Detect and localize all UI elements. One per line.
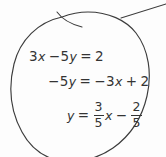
line3-variable-y: y	[67, 108, 75, 123]
slope-denominator: 5	[94, 117, 104, 130]
line1-constant-2: 2	[95, 48, 104, 64]
equation-line-2: −5y=−3x+2	[48, 73, 150, 89]
line1-equals-sign: =	[80, 48, 92, 64]
line2-plus-sign: +	[126, 73, 138, 89]
intercept-denominator: 5	[131, 117, 141, 130]
line2-negative-sign-2: −	[94, 73, 106, 89]
line2-variable-y: y	[69, 74, 77, 89]
line3-variable-x: x	[105, 108, 113, 123]
line1-coeff-3: 3	[29, 48, 38, 64]
line3-equals-sign: =	[78, 107, 90, 123]
handwritten-note-screenshot: 3x−5y=2 −5y=−3x+2 y=35x−25	[0, 0, 166, 157]
equation-line-1: 3x−5y=2	[29, 48, 104, 64]
equation-work-block: 3x−5y=2 −5y=−3x+2 y=35x−25	[0, 0, 166, 157]
intercept-numerator: 2	[131, 101, 141, 114]
slope-numerator: 3	[94, 101, 104, 114]
line1-minus-sign: −	[49, 48, 61, 64]
fraction-slope-three-fifths: 35	[94, 101, 104, 129]
line2-variable-x: x	[115, 74, 123, 89]
fraction-intercept-two-fifths: 25	[131, 101, 141, 129]
line1-coeff-5: 5	[61, 48, 70, 64]
line3-minus-sign: −	[116, 107, 128, 123]
line2-constant-2: 2	[141, 73, 150, 89]
line1-variable-y: y	[70, 49, 78, 64]
line2-negative-sign: −	[48, 73, 60, 89]
line2-coeff-3: 3	[106, 73, 115, 89]
equation-line-3: y=35x−25	[67, 101, 143, 129]
line1-variable-x: x	[38, 49, 46, 64]
line2-equals-sign: =	[80, 73, 92, 89]
line2-coeff-5: 5	[60, 73, 69, 89]
